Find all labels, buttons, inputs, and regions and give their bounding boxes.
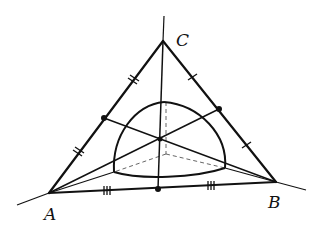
label-c: C xyxy=(176,30,189,50)
axis-c-extension xyxy=(163,16,164,41)
label-b: B xyxy=(267,192,281,212)
centroid xyxy=(158,137,163,142)
triangle-diagram: C A B xyxy=(0,0,325,234)
edge-ab xyxy=(49,182,276,193)
axis-b-extension xyxy=(276,182,306,190)
label-a: A xyxy=(42,204,56,224)
midpoint-ab xyxy=(155,186,161,192)
median-from-c xyxy=(158,41,163,189)
midpoint-bc xyxy=(216,106,222,112)
dome-arc-right xyxy=(164,102,225,168)
dome-arc-base xyxy=(114,168,225,177)
midpoint-ac xyxy=(101,115,107,121)
hidden-edge-right xyxy=(166,154,225,168)
